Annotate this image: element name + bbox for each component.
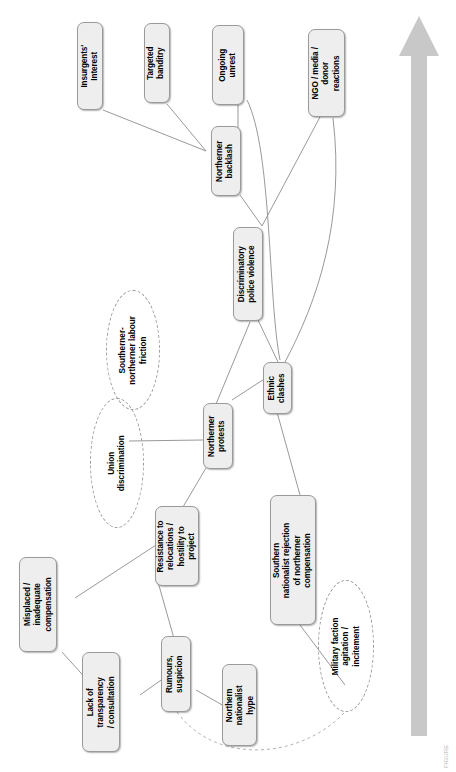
node-label: Rumours, suspicion [166,655,187,692]
node-targeted-banditry[interactable]: Targeted banditry [144,23,170,103]
node-label: Southern nationalist rejection of northe… [273,522,314,597]
node-label: Northern nationalist hype [224,685,255,725]
node-ngo-media-donor-reactions[interactable]: NGO / media / donor reactions [308,29,345,117]
node-label: Resistance to relocations / hostility to… [157,520,198,572]
ellipse-label: Union discrimination [107,435,128,491]
edge-resistance-to-rumours [158,582,175,642]
node-label: NGO / media / donor reactions [311,47,342,99]
node-label: Discriminatory police violence [238,245,259,302]
ellipse-label: Military faction agitation / incitement [331,617,362,675]
edge-ngo-to-ethnic [285,118,336,362]
ellipse-label: Southerner- northerner labour friction [118,316,149,385]
node-southern-nationalist-rejection[interactable]: Southern nationalist rejection of northe… [270,495,316,625]
edge-rumours-to-military-dashed [177,712,345,750]
edge-insurgents-to-backlash [103,110,206,151]
node-misplaced-inadequate-compensation[interactable]: Misplaced / inadequate compensation [19,557,57,652]
node-resistance-to-relocations[interactable]: Resistance to relocations / hostility to… [155,506,199,586]
node-label: Misplaced / inadequate compensation [23,577,54,631]
edge-police-to-ethnic [258,320,278,362]
node-label: Insurgents' Interest [80,45,101,88]
node-discriminatory-police-violence[interactable]: Discriminatory police violence [233,227,263,321]
node-rumours-suspicion[interactable]: Rumours, suspicion [161,636,191,712]
node-label: Targeted banditry [147,46,168,79]
edge-ngo-to-police [262,117,320,226]
node-northerner-backlash[interactable]: Northerner backlash [211,126,241,196]
figure-canvas: Insurgents' Interest Targeted banditry O… [0,0,456,772]
node-label: Ongoing unrest [218,49,239,82]
node-lack-of-transparency[interactable]: Lack of transparency / consultation [82,652,120,752]
node-label: Lack of transparency / consultation [86,676,117,728]
edge-banditry-to-backlash [167,104,206,151]
edge-layer [0,0,456,772]
ellipse-military-faction-agitation[interactable]: Military faction agitation / incitement [318,580,374,712]
node-northern-nationalist-hype[interactable]: Northern nationalist hype [222,664,257,746]
node-ethnic-clashes[interactable]: Ethnic clashes [263,362,292,414]
figure-caption: FIGURE [439,650,455,770]
ellipse-southerner-northerner-labour-friction[interactable]: Southerner- northerner labour friction [106,290,160,410]
edge-police-to-protests [216,322,250,404]
node-northerner-protests[interactable]: Northerner protests [203,403,233,469]
ellipse-union-discrimination[interactable]: Union discrimination [90,398,144,528]
edge-backlash-to-police [240,195,262,226]
escalation-arrow [398,14,440,738]
node-ongoing-unrest[interactable]: Ongoing unrest [212,25,244,105]
edge-resistance-to-misplaced [75,545,156,598]
node-label: Ethnic clashes [267,373,288,402]
edge-rumours-to-hype [196,690,224,706]
node-label: Northerner protests [208,415,229,456]
node-label: Northerner backlash [216,140,237,181]
edge-ethnic-to-southern [277,412,300,495]
node-insurgents-interest[interactable]: Insurgents' Interest [77,22,103,110]
